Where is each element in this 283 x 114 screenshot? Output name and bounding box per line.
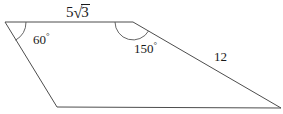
- angle-150-value: 150: [134, 41, 154, 56]
- geometry-figure: 5√3 60° 150° 12: [0, 0, 283, 114]
- side-label-right: 12: [214, 50, 227, 63]
- side-right-value: 12: [214, 49, 227, 64]
- side-top-coefficient: 5: [66, 4, 74, 20]
- side-label-top: 5√3: [66, 3, 90, 20]
- angle-label-60: 60°: [33, 33, 50, 46]
- radicand: 3: [81, 4, 90, 20]
- angle-label-150: 150°: [134, 42, 157, 55]
- angle-arc-150: [115, 22, 149, 40]
- degree-symbol-icon: °: [46, 31, 50, 41]
- radical-group: √3: [74, 3, 90, 20]
- angle-60-value: 60: [33, 32, 46, 47]
- figure-canvas: [0, 0, 283, 114]
- angle-arc-60: [16, 22, 27, 40]
- degree-symbol-icon: °: [154, 40, 158, 50]
